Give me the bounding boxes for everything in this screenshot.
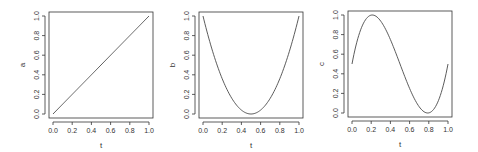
- y-tick-label: 0.0: [183, 109, 190, 119]
- x-tick-label: 0.6: [106, 127, 116, 134]
- x-tick-label: 0.0: [48, 127, 58, 134]
- y-axis: 0.00.20.40.60.81.0: [183, 11, 195, 119]
- y-tick-label: 0.0: [332, 108, 339, 118]
- x-axis: 0.00.20.40.60.81.0: [347, 121, 453, 133]
- y-tick-label: 0.2: [183, 89, 190, 99]
- y-axis-title: c: [317, 62, 326, 66]
- x-tick-label: 0.6: [405, 126, 415, 133]
- x-axis-title: t: [399, 140, 402, 149]
- x-tick-label: 0.8: [275, 127, 285, 134]
- x-tick-label: 0.8: [424, 126, 434, 133]
- y-tick-label: 0.6: [33, 50, 40, 60]
- y-tick-label: 0.6: [332, 49, 339, 59]
- x-tick-label: 0.2: [67, 127, 77, 134]
- y-tick-label: 0.4: [183, 70, 190, 80]
- x-axis-title: t: [100, 141, 103, 150]
- plot-b: 0.00.20.40.60.81.00.00.20.40.60.81.0tb: [168, 11, 304, 150]
- y-axis: 0.00.20.40.60.81.0: [33, 11, 45, 119]
- x-tick-label: 0.4: [87, 127, 97, 134]
- chart-canvas: 0.00.20.40.60.81.00.00.20.40.60.81.0ta0.…: [0, 0, 478, 152]
- y-tick-label: 1.0: [332, 10, 339, 20]
- y-tick-label: 0.4: [33, 70, 40, 80]
- x-axis: 0.00.20.40.60.81.0: [198, 122, 304, 134]
- x-tick-label: 1.0: [144, 127, 154, 134]
- series-line-a: [53, 16, 149, 114]
- x-tick-label: 0.4: [386, 126, 396, 133]
- x-tick-label: 1.0: [443, 126, 453, 133]
- plot-a: 0.00.20.40.60.81.00.00.20.40.60.81.0ta: [18, 11, 154, 150]
- y-axis: 0.00.20.40.60.81.0: [332, 10, 344, 118]
- x-tick-label: 0.0: [198, 127, 208, 134]
- series-line-b: [203, 16, 299, 114]
- y-axis-title: b: [168, 62, 177, 67]
- y-tick-label: 0.8: [332, 30, 339, 40]
- x-tick-label: 1.0: [294, 127, 304, 134]
- y-tick-label: 0.0: [33, 109, 40, 119]
- x-tick-label: 0.4: [237, 127, 247, 134]
- plot-c: 0.00.20.40.60.81.00.00.20.40.60.81.0tc: [317, 10, 453, 149]
- plot-frame: [199, 12, 303, 118]
- x-tick-label: 0.2: [217, 127, 227, 134]
- x-tick-label: 0.6: [256, 127, 266, 134]
- y-tick-label: 0.6: [183, 50, 190, 60]
- y-tick-label: 1.0: [183, 11, 190, 21]
- y-axis-title: a: [18, 62, 27, 67]
- y-tick-label: 0.2: [33, 89, 40, 99]
- x-axis: 0.00.20.40.60.81.0: [48, 122, 154, 134]
- x-tick-label: 0.8: [125, 127, 135, 134]
- x-axis-title: t: [250, 141, 253, 150]
- y-tick-label: 1.0: [33, 11, 40, 21]
- series-line-c: [352, 15, 448, 113]
- y-tick-label: 0.4: [332, 69, 339, 79]
- y-tick-label: 0.8: [183, 31, 190, 41]
- x-tick-label: 0.0: [347, 126, 357, 133]
- y-tick-label: 0.2: [332, 88, 339, 98]
- x-tick-label: 0.2: [366, 126, 376, 133]
- y-tick-label: 0.8: [33, 31, 40, 41]
